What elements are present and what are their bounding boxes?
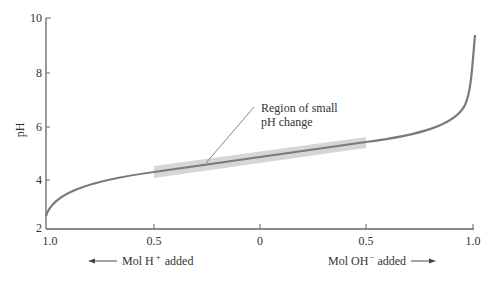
svg-text:Mol OH−added: Mol OH−added bbox=[328, 252, 406, 268]
x-tick-oh-0.5: 0.5 bbox=[359, 234, 374, 248]
y-axis-label: pH bbox=[13, 122, 27, 137]
annotation-line1: Region of small bbox=[261, 101, 338, 115]
x-tick-h-0.5: 0.5 bbox=[147, 234, 162, 248]
x-tick-oh-1.0: 1.0 bbox=[466, 234, 481, 248]
left-direction-label: Mol H+added bbox=[88, 252, 193, 268]
x-ticks bbox=[154, 224, 473, 229]
arrow-right-icon bbox=[429, 259, 436, 264]
x-tick-h-1.0: 1.0 bbox=[43, 234, 58, 248]
right-direction-label: Mol OH−added bbox=[328, 252, 436, 268]
y-tick-2: 2 bbox=[36, 221, 42, 235]
arrow-left-icon bbox=[88, 259, 95, 264]
y-tick-10: 10 bbox=[30, 11, 42, 25]
x-tick-0: 0 bbox=[257, 234, 263, 248]
svg-text:Mol H+added: Mol H+added bbox=[122, 252, 193, 268]
y-tick-6: 6 bbox=[36, 120, 42, 134]
titration-chart: 10 8 6 4 2 pH 1.0 0.5 0 0.5 1.0 Region o… bbox=[0, 0, 499, 285]
y-tick-8: 8 bbox=[36, 66, 42, 80]
y-tick-4: 4 bbox=[36, 173, 42, 187]
annotation-line2: pH change bbox=[261, 115, 313, 129]
